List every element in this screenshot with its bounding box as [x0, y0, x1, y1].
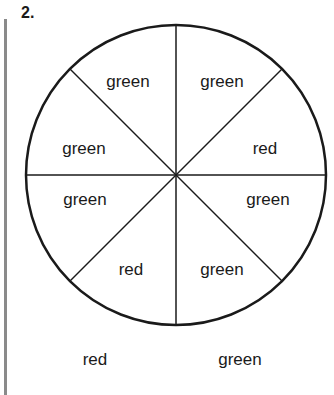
section-label: green	[246, 190, 289, 210]
section-label: red	[253, 139, 278, 159]
section-label: green	[62, 139, 105, 159]
answer-choice[interactable]: red	[83, 350, 108, 370]
section-label: green	[200, 72, 243, 92]
section-label: green	[200, 260, 243, 280]
section-label: red	[119, 260, 144, 280]
section-label: green	[63, 190, 106, 210]
section-label: green	[106, 72, 149, 92]
spinner-circle	[0, 0, 334, 330]
answer-choice[interactable]: green	[218, 350, 261, 370]
